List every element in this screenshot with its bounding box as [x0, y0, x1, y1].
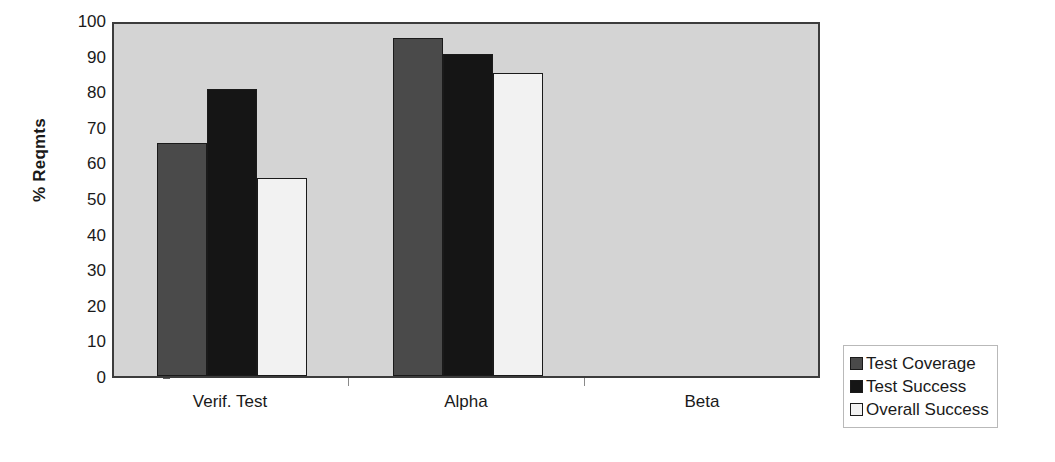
y-tick-label: 60 — [58, 154, 106, 174]
bar-verif-test-test-success — [207, 89, 257, 376]
bar-alpha-overall-success — [493, 73, 543, 376]
bar-alpha-test-coverage — [393, 38, 443, 376]
bar-chart: % Reqmts 0102030405060708090100 Verif. T… — [0, 0, 1055, 462]
x-category-label: Beta — [685, 392, 720, 412]
legend-item-label: Test Success — [866, 378, 966, 395]
y-tick-label: 70 — [58, 119, 106, 139]
legend-swatch-test-coverage — [850, 357, 863, 370]
bar-verif-test-test-coverage — [157, 143, 207, 376]
y-tick-label: 30 — [58, 261, 106, 281]
legend-item: Test Coverage — [850, 352, 989, 375]
y-tick-label: 90 — [58, 48, 106, 68]
legend-item: Test Success — [850, 375, 989, 398]
y-tick-label: 100 — [58, 12, 106, 32]
y-tick-mark — [163, 378, 170, 379]
y-tick-label: 40 — [58, 226, 106, 246]
legend-item: Overall Success — [850, 398, 989, 421]
bar-verif-test-overall-success — [257, 178, 307, 376]
chart-legend: Test CoverageTest SuccessOverall Success — [843, 345, 998, 428]
x-tick-mark — [584, 378, 585, 386]
x-tick-mark — [348, 378, 349, 386]
legend-swatch-overall-success — [850, 403, 863, 416]
legend-swatch-test-success — [850, 380, 863, 393]
legend-item-label: Overall Success — [866, 401, 989, 418]
y-tick-label: 20 — [58, 297, 106, 317]
plot-inner — [114, 24, 818, 376]
y-tick-label: 80 — [58, 83, 106, 103]
y-tick-label: 10 — [58, 332, 106, 352]
y-tick-label: 50 — [58, 190, 106, 210]
x-category-label: Verif. Test — [193, 392, 267, 412]
y-tick-label: 0 — [58, 368, 106, 388]
legend-item-label: Test Coverage — [866, 355, 976, 372]
x-category-label: Alpha — [444, 392, 487, 412]
bar-alpha-test-success — [443, 54, 493, 376]
y-axis-tick-labels: 0102030405060708090100 — [58, 22, 106, 378]
y-axis-title: % Reqmts — [30, 80, 50, 240]
plot-area — [112, 22, 820, 378]
